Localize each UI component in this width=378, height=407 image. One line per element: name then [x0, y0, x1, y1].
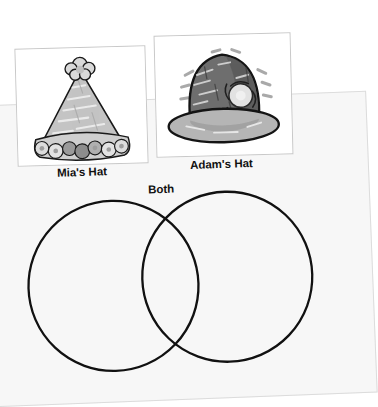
adam-hat-caption: Adam's Hat	[190, 157, 253, 171]
bowler-hat-image	[155, 33, 293, 156]
mia-hat-photo-frame	[14, 45, 148, 167]
mia-hat-caption: Mia's Hat	[57, 165, 107, 179]
adam-hat-photo-frame	[154, 32, 294, 157]
party-hat-image	[15, 46, 147, 166]
venn-circle-right	[140, 189, 315, 364]
venn-diagram	[0, 173, 368, 407]
venn-circle-left	[26, 199, 201, 374]
